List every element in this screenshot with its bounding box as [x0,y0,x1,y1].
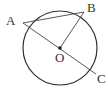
label-a: A [6,13,16,28]
radius-ob [60,12,84,48]
label-o: O [55,50,64,65]
circle-diagram: A B C O [0,0,108,96]
chord-ab [23,12,84,23]
label-c: C [97,71,106,86]
diagram-canvas: A B C O [0,0,108,96]
label-b: B [87,0,96,15]
